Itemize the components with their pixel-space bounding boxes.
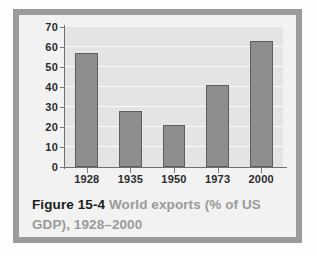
y-axis-tick <box>60 127 65 128</box>
x-axis-tick-label: 1950 <box>152 173 196 185</box>
plot-area <box>65 27 283 167</box>
scanned-page: 010203040506070 19281935195019732000 Fig… <box>0 0 317 256</box>
figure-frame: 010203040506070 19281935195019732000 Fig… <box>13 9 302 243</box>
figure-caption-label: Figure 15-4 <box>32 197 105 212</box>
y-axis-tick-label: 0 <box>52 161 58 173</box>
y-axis-tick-label: 40 <box>45 81 58 93</box>
x-axis-tick-label: 1973 <box>196 173 240 185</box>
bar <box>75 53 98 167</box>
x-axis-tick-label: 1935 <box>109 173 153 185</box>
y-axis-tick-label: 10 <box>45 141 58 153</box>
figure-caption: Figure 15-4 World exports (% of US GDP),… <box>32 195 284 234</box>
figure-panel: 010203040506070 19281935195019732000 Fig… <box>19 15 296 237</box>
bar <box>206 85 229 167</box>
bar <box>250 41 273 167</box>
y-axis-tick <box>60 87 65 88</box>
y-axis-tick <box>60 147 65 148</box>
y-axis-tick-label: 50 <box>45 61 58 73</box>
x-axis-tick-label: 1928 <box>65 173 109 185</box>
y-axis-tick-label: 20 <box>45 121 58 133</box>
y-axis-tick <box>60 27 65 28</box>
bar-chart: 010203040506070 19281935195019732000 <box>27 21 289 189</box>
y-axis-tick-label: 70 <box>45 21 58 33</box>
y-axis-tick <box>60 67 65 68</box>
bar <box>163 125 186 167</box>
y-axis-tick <box>60 167 65 168</box>
y-axis-tick-label: 30 <box>45 101 58 113</box>
x-axis-tick-label: 2000 <box>239 173 283 185</box>
y-axis-tick <box>60 107 65 108</box>
y-axis-tick <box>60 47 65 48</box>
y-axis-tick-label: 60 <box>45 41 58 53</box>
bar <box>119 111 142 167</box>
